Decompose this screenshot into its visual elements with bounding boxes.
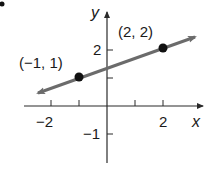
x-axis-label: x <box>191 113 201 130</box>
coordinate-plot: (−1, 1) (2, 2) y x 2 −1 −2 2 <box>0 0 208 179</box>
y-tick-label-neg1: −1 <box>83 125 100 142</box>
point-b-label: (2, 2) <box>118 23 153 40</box>
y-tick-label-2: 2 <box>93 41 101 58</box>
y-ticks <box>107 50 113 134</box>
y-axis-label: y <box>90 4 100 21</box>
problem-marker-dot <box>0 2 5 7</box>
point-neg1-1 <box>75 73 84 82</box>
point-2-2 <box>159 44 168 53</box>
x-tick-label-neg2: −2 <box>36 113 53 130</box>
point-a-label: (−1, 1) <box>19 54 63 71</box>
x-tick-label-2: 2 <box>159 113 167 130</box>
